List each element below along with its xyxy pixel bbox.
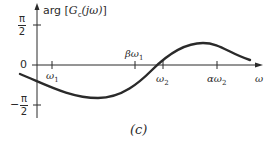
y-title-arg: (jω) <box>82 4 103 17</box>
x-label-alpha-omega2: αω2 <box>207 73 226 89</box>
y-axis-arrow-icon <box>35 3 40 10</box>
y-title-G: G <box>69 4 78 17</box>
y-axis-title: arg [Gc(jω)] <box>43 5 107 21</box>
two-denominator: 2 <box>19 27 25 37</box>
omega1-sub: 1 <box>54 76 58 84</box>
omega1-symbol: ω <box>46 70 54 81</box>
y-title-prefix: arg [ <box>43 4 69 17</box>
alpha-omega2-symbol: αω <box>207 73 222 84</box>
y-label-pi-over-2: π 2 <box>18 14 26 37</box>
figure-caption: (c) <box>130 123 147 136</box>
x-label-beta-omega1: βω1 <box>125 48 143 64</box>
y-label-minus-sign: − <box>10 99 19 110</box>
beta-omega1-sub: 1 <box>139 54 143 62</box>
two-denominator: 2 <box>21 107 27 117</box>
beta-omega1-symbol: βω <box>125 48 139 59</box>
omega2-sub: 2 <box>164 79 168 87</box>
x-label-omega1: ω1 <box>46 70 59 86</box>
x-label-omega2: ω2 <box>156 73 169 89</box>
y-label-zero: 0 <box>20 59 27 70</box>
pi-numerator: π <box>19 14 25 24</box>
alpha-omega2-sub: 2 <box>222 79 226 87</box>
x-axis-label-omega: ω <box>255 73 263 84</box>
pi-numerator: π <box>21 94 27 104</box>
x-axis-arrow-icon <box>255 63 263 68</box>
omega2-symbol: ω <box>156 73 164 84</box>
y-label-neg-pi-over-2: π 2 <box>20 94 28 117</box>
y-title-suffix: ] <box>102 4 106 17</box>
